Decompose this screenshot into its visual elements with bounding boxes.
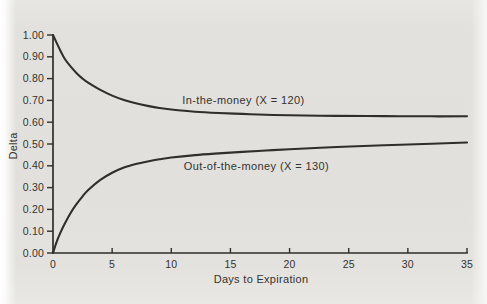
x-tick-label: 25	[343, 258, 355, 270]
y-axis-title: Delta	[7, 132, 19, 160]
y-tick-label: 0.50	[23, 138, 44, 150]
plot-area: 1.000.900.800.700.600.500.400.300.200.10…	[7, 29, 473, 286]
y-tick-label: 0.20	[23, 203, 44, 215]
x-axis-ticks: 05101520253035	[50, 248, 473, 270]
curve-annotations: In-the-money (X = 120)Out-of-the-money (…	[182, 94, 329, 172]
y-tick-label: 0.80	[23, 72, 44, 84]
scanned-figure: 1.000.900.800.700.600.500.400.300.200.10…	[0, 0, 487, 304]
y-tick-label: 1.00	[23, 29, 44, 41]
x-tick-label: 10	[165, 258, 177, 270]
delta-vs-days-chart: 1.000.900.800.700.600.500.400.300.200.10…	[0, 0, 487, 304]
y-tick-label: 0.90	[23, 50, 44, 62]
y-tick-label: 0.10	[23, 225, 44, 237]
x-tick-label: 0	[50, 258, 56, 270]
curve-annotation: Out-of-the-money (X = 130)	[184, 160, 329, 172]
y-tick-label: 0.40	[23, 159, 44, 171]
x-tick-label: 15	[224, 258, 236, 270]
curve-annotation: In-the-money (X = 120)	[182, 94, 304, 106]
y-axis-ticks: 1.000.900.800.700.600.500.400.300.200.10…	[23, 29, 53, 259]
y-tick-label: 0.70	[23, 94, 44, 106]
x-tick-label: 30	[402, 258, 414, 270]
y-tick-label: 0.00	[23, 247, 44, 259]
y-tick-label: 0.30	[23, 181, 44, 193]
x-tick-label: 20	[284, 258, 296, 270]
y-tick-label: 0.60	[23, 116, 44, 128]
x-axis-title: Days to Expiration	[214, 273, 309, 285]
series-curves	[53, 35, 467, 253]
x-tick-label: 5	[109, 258, 115, 270]
x-tick-label: 35	[461, 258, 473, 270]
